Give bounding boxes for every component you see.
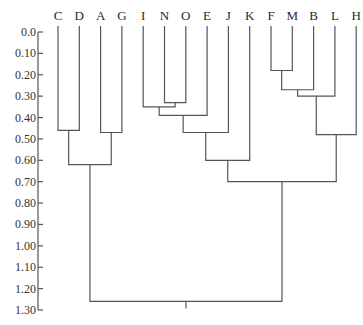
y-tick-label: 0.0 [21,25,36,39]
merge-link [143,26,175,107]
leaf-label: N [160,8,170,23]
y-tick-label: 0.90 [15,217,36,231]
merge-link [282,26,314,90]
leaf-label: O [181,8,190,23]
y-tick-label: 0.10 [15,46,36,60]
merge-link [206,26,250,160]
merge-link [271,26,292,70]
y-tick-label: 0.50 [15,132,36,146]
leaf-label: A [96,8,106,23]
leaf-label: B [309,8,318,23]
y-tick-label: 0.60 [15,153,36,167]
leaf-label: I [141,8,145,23]
merge-link [90,165,282,302]
y-tick-label: 0.80 [15,196,36,210]
leaf-label: F [267,8,274,23]
y-tick-label: 1.30 [15,303,36,317]
leaf-label: C [54,8,63,23]
y-tick-label: 0.70 [15,175,36,189]
y-tick-label: 1.20 [15,282,36,296]
leaf-label: H [352,8,361,23]
leaf-label: G [117,8,126,23]
leaf-label: M [287,8,299,23]
leaf-labels: CDAGINOEJKFMBLH [54,8,361,23]
leaf-label: K [245,8,255,23]
y-tick-label: 0.40 [15,111,36,125]
y-axis: 0.00.100.200.300.400.500.600.700.800.901… [15,25,43,317]
y-tick-label: 0.20 [15,68,36,82]
leaf-label: D [75,8,84,23]
dendrogram-chart: 0.00.100.200.300.400.500.600.700.800.901… [0,0,363,325]
merge-link [316,26,356,135]
merge-link [165,26,186,103]
leaf-label: L [331,8,339,23]
merge-link [298,26,335,96]
dendrogram-links [58,26,356,308]
leaf-label: E [203,8,211,23]
merge-link [69,130,112,164]
merge-link [228,135,336,182]
merge-link [183,26,228,133]
y-tick-label: 0.30 [15,89,36,103]
merge-link [101,26,122,133]
leaf-label: J [226,8,231,23]
y-tick-label: 1.10 [15,260,36,274]
y-tick-label: 1.00 [15,239,36,253]
merge-link [58,26,79,130]
